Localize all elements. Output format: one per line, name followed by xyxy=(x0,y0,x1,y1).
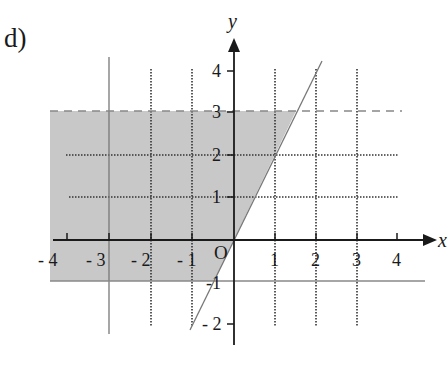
svg-text:- 3: - 3 xyxy=(86,250,106,270)
svg-text:1: 1 xyxy=(212,187,221,207)
svg-text:- 1: - 1 xyxy=(177,250,197,270)
svg-text:- 2: - 2 xyxy=(131,250,151,270)
svg-text:- 2: - 2 xyxy=(202,314,222,334)
part-label: d) xyxy=(4,23,27,53)
svg-text:4: 4 xyxy=(392,250,401,270)
svg-text:2: 2 xyxy=(212,145,221,165)
x-axis-label: x xyxy=(437,229,447,251)
y-axis-arrow-icon xyxy=(228,38,240,52)
svg-text:4: 4 xyxy=(212,61,221,81)
svg-text:- 4: - 4 xyxy=(38,250,58,270)
origin-label: O xyxy=(214,242,228,263)
y-axis-label: y xyxy=(226,10,237,33)
svg-text:3: 3 xyxy=(352,250,361,270)
inequality-graph: d) y x O - 4 - 3 - 2 - 1 1 2 3 4 4 3 2 1… xyxy=(0,0,448,365)
x-axis-arrow-icon xyxy=(423,234,437,246)
svg-text:3: 3 xyxy=(212,102,221,122)
svg-text:1: 1 xyxy=(270,250,279,270)
svg-text:2: 2 xyxy=(311,250,320,270)
svg-text:-1: -1 xyxy=(206,273,221,293)
